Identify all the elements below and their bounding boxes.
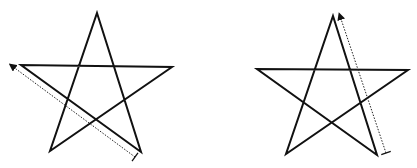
left-pentagram [21,13,172,152]
left-star-panel [12,13,172,161]
right-pentagram [257,16,408,155]
diagram-svg [0,0,417,168]
right-star-panel [257,16,408,155]
left-arrow-tick [132,153,138,161]
pentagram-diagram: Two pentagram stroke-order diagrams with… [0,0,417,168]
